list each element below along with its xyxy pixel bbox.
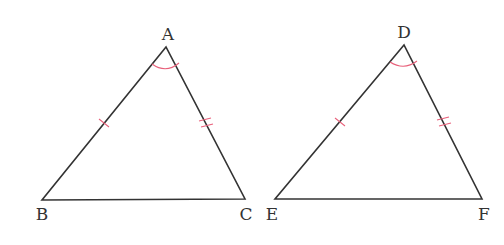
vertex-label-a: A	[161, 24, 175, 44]
vertex-label-d: D	[397, 22, 411, 42]
vertex-label-f: F	[478, 204, 490, 224]
triangle-def-edges	[275, 45, 482, 199]
congruent-triangles-diagram: A B C D E F	[0, 0, 504, 245]
triangle-def: D E F	[266, 22, 490, 224]
triangle-abc: A B C	[36, 24, 253, 224]
triangle-abc-edges	[42, 47, 245, 200]
vertex-label-b: B	[36, 204, 49, 224]
tick-double-df-1-icon	[437, 117, 449, 120]
vertex-label-c: C	[239, 204, 252, 224]
vertex-label-e: E	[266, 204, 278, 224]
